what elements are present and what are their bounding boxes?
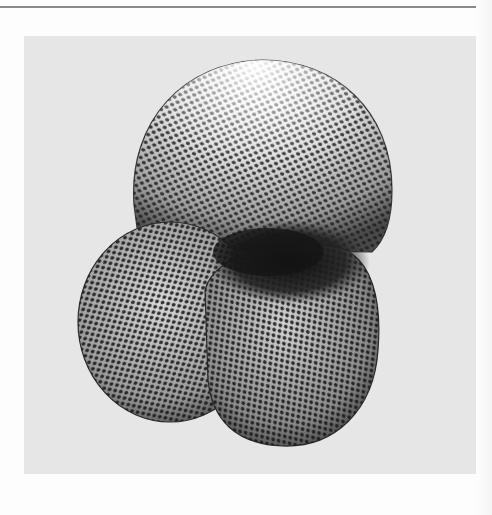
foraminifera-shell-image — [24, 36, 476, 474]
top-rule-divider — [0, 6, 492, 8]
micrograph-panel — [24, 36, 476, 474]
page-margin — [476, 0, 492, 515]
